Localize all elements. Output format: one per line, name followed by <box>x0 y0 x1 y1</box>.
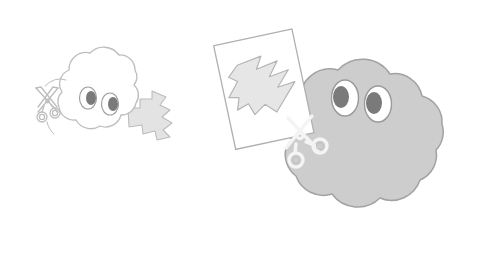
scene-illustration <box>0 0 504 256</box>
large-cloud-character <box>214 29 444 207</box>
large-cloud-eye-right <box>365 86 392 122</box>
small-cloud-eye-left <box>80 87 97 109</box>
small-cloud-pupil-right <box>108 97 118 111</box>
small-cloud-body <box>58 47 138 128</box>
small-cloud-pupil-left <box>86 91 96 105</box>
large-cloud-eye-left <box>332 80 359 116</box>
small-cloud-eye-right <box>102 93 119 115</box>
small-cloud-character <box>36 47 172 140</box>
illustration-stage: Two cloud characters cutting zigzag shap… <box>0 0 504 256</box>
large-cloud-pupil-right <box>366 92 382 114</box>
large-cloud-pupil-left <box>333 86 349 108</box>
